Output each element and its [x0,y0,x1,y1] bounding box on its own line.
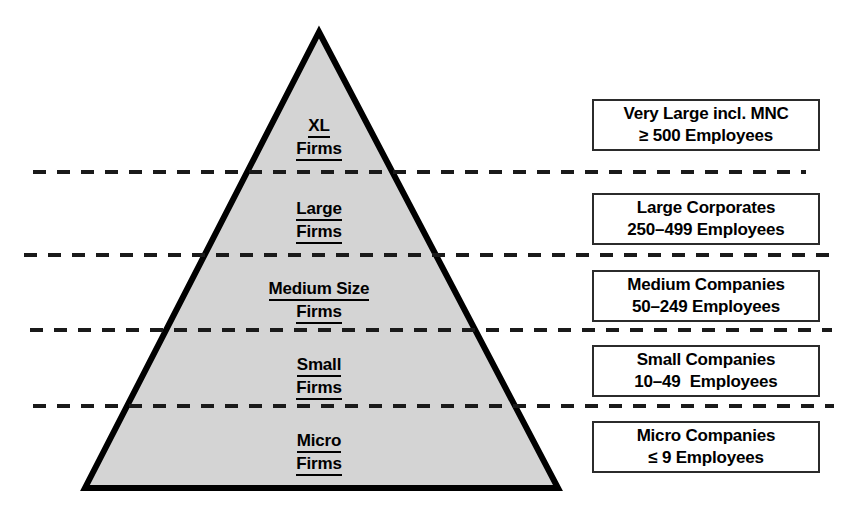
description-box-small-line2: 10–49 Employees [634,371,777,393]
tier-label-small-line2: Firms [239,377,399,400]
tier-label-small-line1: Small [239,354,399,377]
description-box-medium: Medium Companies 50–249 Employees [592,270,820,322]
tier-label-xl-line2: Firms [239,138,399,161]
pyramid-shape [85,32,558,488]
tier-label-large-line2: Firms [239,221,399,244]
tier-label-large: Large Firms [239,198,399,244]
description-box-xl: Very Large incl. MNC ≥ 500 Employees [592,99,820,151]
tier-label-large-line1: Large [239,198,399,221]
description-box-large-line1: Large Corporates [637,197,776,219]
tier-label-micro-line1: Micro [239,430,399,453]
description-box-micro: Micro Companies ≤ 9 Employees [592,421,820,473]
description-box-medium-line1: Medium Companies [627,274,784,296]
description-box-micro-line1: Micro Companies [637,425,776,447]
tier-label-xl-line1: XL [239,115,399,138]
description-box-xl-line1: Very Large incl. MNC [623,103,788,125]
tier-label-small: Small Firms [239,354,399,400]
tier-label-xl: XL Firms [239,115,399,161]
tier-label-medium-line1: Medium Size [229,278,409,301]
description-box-medium-line2: 50–249 Employees [632,296,780,318]
description-box-xl-line2: ≥ 500 Employees [639,125,773,147]
tier-label-medium-line2: Firms [229,301,409,324]
description-box-large: Large Corporates 250–499 Employees [592,193,820,245]
pyramid-diagram: XL Firms Large Firms Medium Size Firms S… [0,0,851,511]
description-box-large-line2: 250–499 Employees [627,219,784,241]
tier-label-micro: Micro Firms [239,430,399,476]
description-box-small: Small Companies 10–49 Employees [592,345,820,397]
description-box-small-line1: Small Companies [637,349,776,371]
description-box-micro-line2: ≤ 9 Employees [648,447,763,469]
tier-label-micro-line2: Firms [239,453,399,476]
tier-label-medium: Medium Size Firms [229,278,409,324]
